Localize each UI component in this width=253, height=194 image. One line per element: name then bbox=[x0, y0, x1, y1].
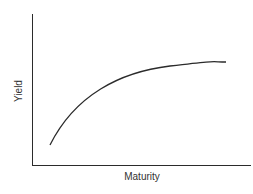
yield-curve-line bbox=[50, 62, 226, 145]
x-axis-label: Maturity bbox=[124, 171, 160, 182]
yield-curve-chart: Maturity Yield bbox=[0, 0, 253, 194]
y-axis-label: Yield bbox=[13, 80, 24, 102]
